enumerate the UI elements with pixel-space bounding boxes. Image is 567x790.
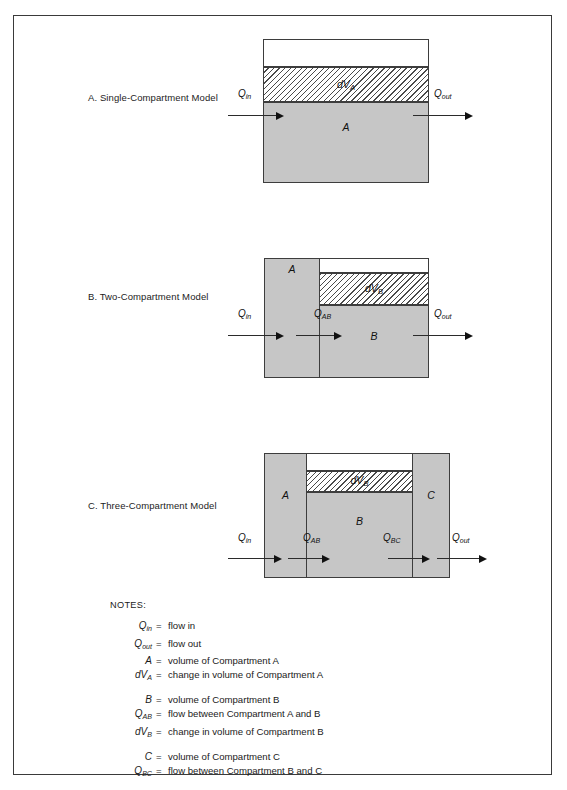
notes-description: flow between Compartment A and B [168,707,321,721]
notes-row: QAB=flow between Compartment A and B [110,707,324,725]
notes-symbol-subscript: AB [143,713,152,721]
notes-row: Qin=flow in [110,619,324,637]
notes-symbol-subscript: BC [142,770,152,778]
figure-c-title: C. Three-Compartment Model [88,500,217,511]
notes-description: volume of Compartment C [168,750,280,764]
figure-c-dvb-label: dVB [306,474,413,488]
notes-description: flow in [168,619,195,633]
notes-symbol-subscript: in [146,625,152,633]
notes-equals-sign: = [156,725,168,739]
notes-symbol-base: dV [135,669,147,680]
figure-c-q-in-base: Q [238,532,246,543]
notes-equals-sign: = [156,668,168,682]
notes-group: C=volume of Compartment CQBC=flow betwee… [110,750,324,781]
figure-c-q-out-label: Qout [452,532,470,544]
figure-c-q-ab-arrow [288,554,332,563]
notes-symbol-base: dV [135,726,147,737]
notes-list: Qin=flow inQout=flow outA=volume of Comp… [110,619,324,781]
figure-c-compartment-c-label: C [412,489,450,501]
notes-symbol-base: A [145,655,152,666]
figure-c-headspace [306,453,413,471]
notes-equals-sign: = [156,693,168,707]
figure-c-q-ab-label: QAB [303,532,320,544]
notes-symbol: dVA [110,668,156,686]
notes-row: dVB=change in volume of Compartment B [110,725,324,743]
notes-block: NOTES: Qin=flow inQout=flow outA=volume … [110,600,324,789]
figure-c-compartment-a-label: A [264,489,307,501]
notes-symbol-subscript: A [147,674,152,682]
notes-symbol-base: C [145,751,152,762]
figure-c-q-in-label: Qin [238,532,251,544]
notes-row: QBC=flow between Compartment B and C [110,764,324,782]
notes-description: flow between Compartment B and C [168,764,322,778]
notes-symbol-subscript: B [147,731,152,739]
notes-equals-sign: = [156,750,168,764]
figure-c-q-bc-arrow [388,554,432,563]
notes-symbol-subscript: out [142,643,152,651]
figure-c-q-bc-sub: BC [391,537,401,544]
figure-c-q-in-sub: in [246,537,251,544]
figure-c-q-out-base: Q [452,532,460,543]
notes-equals-sign: = [156,619,168,633]
figure-c-q-ab-base: Q [303,532,311,543]
figure-c-q-bc-label: QBC [383,532,401,544]
page-canvas: A. Single-Compartment Model dVA A Qin Qo… [0,0,567,790]
figure-c-q-ab-sub: AB [311,537,320,544]
notes-description: change in volume of Compartment A [168,668,323,682]
figure-c-q-bc-base: Q [383,532,391,543]
notes-symbol: dVB [110,725,156,743]
notes-row: dVA=change in volume of Compartment A [110,668,324,686]
notes-symbol: QAB [110,707,156,725]
notes-row: C=volume of Compartment C [110,750,324,764]
notes-symbol-base: Q [135,708,143,719]
notes-row: Qout=flow out [110,637,324,655]
notes-symbol: B [110,693,156,707]
notes-description: flow out [168,637,201,651]
notes-description: volume of Compartment B [168,693,279,707]
notes-equals-sign: = [156,764,168,778]
notes-symbol: A [110,654,156,668]
notes-heading: NOTES: [110,600,324,610]
figure-c-dvb-sub: B [363,479,368,488]
notes-symbol: QBC [110,764,156,782]
notes-equals-sign: = [156,707,168,721]
notes-symbol-base: Q [134,765,142,776]
notes-symbol: Qout [110,637,156,655]
figure-c-q-out-sub: out [460,537,470,544]
figure-c-compartment-b-label: B [306,515,413,527]
notes-row: A=volume of Compartment A [110,654,324,668]
notes-description: volume of Compartment A [168,654,279,668]
notes-description: change in volume of Compartment B [168,725,324,739]
notes-symbol: C [110,750,156,764]
notes-equals-sign: = [156,654,168,668]
figure-c-dvb-base: dV [351,474,364,486]
figure-three-compartment: C. Three-Compartment Model A C dVB B Qin [0,0,567,610]
notes-equals-sign: = [156,637,168,651]
notes-symbol-base: Q [134,638,142,649]
notes-group: Qin=flow inQout=flow outA=volume of Comp… [110,619,324,685]
notes-row: B=volume of Compartment B [110,693,324,707]
figure-c-q-in-arrow [228,554,284,563]
notes-symbol: Qin [110,619,156,637]
notes-group: B=volume of Compartment BQAB=flow betwee… [110,693,324,742]
figure-c-q-out-arrow [437,554,489,563]
notes-symbol-base: B [145,694,152,705]
